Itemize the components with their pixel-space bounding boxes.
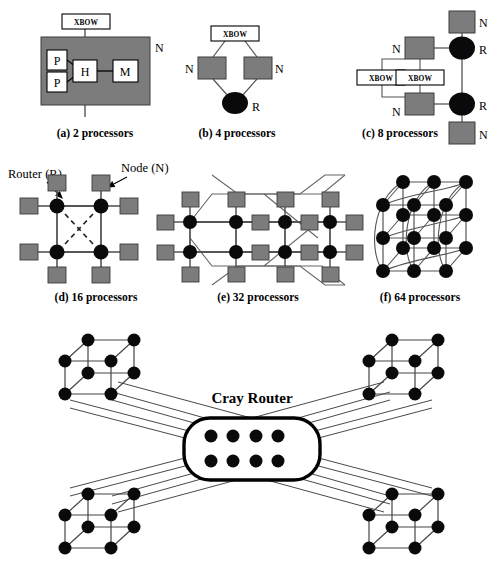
cluster-bottom-left-node-8	[105, 542, 118, 555]
panel-c-xbow-label-right: XBOW	[408, 74, 433, 83]
panel-e-node-1-top	[182, 192, 199, 207]
panel-c-router-bottom	[449, 93, 475, 116]
panel-f-router-b9	[459, 241, 473, 255]
cluster-top-left-node-4	[128, 367, 141, 380]
panel-a-node-marker: N	[155, 41, 164, 55]
panel-e-router-2-top	[229, 215, 243, 229]
panel-d-node-left-upper	[20, 198, 38, 214]
panel-d-node-top-right	[92, 175, 110, 191]
panel-c-node-marker-bottom: N	[479, 128, 488, 142]
panel-b-node-left	[198, 57, 226, 79]
panel-f-router-b2	[427, 175, 441, 189]
cluster-bottom-left-node-2	[128, 488, 141, 501]
panel-f-caption: (f) 64 processors	[380, 291, 461, 304]
panel-c-node-lower-mid	[405, 93, 434, 115]
panel-e-node-1-bottom	[182, 267, 199, 282]
panel-f-router-f7	[376, 264, 390, 278]
panel-f-router-f8	[407, 264, 421, 278]
panel-e-node-1-left	[157, 215, 174, 230]
cray-router-enclosure	[184, 418, 320, 480]
panel-a-memory-label: M	[120, 65, 131, 79]
panel-e-node-3-left-lower	[301, 245, 318, 260]
cluster-top-right-node-8	[409, 388, 422, 401]
panel-f-router-f5	[407, 231, 421, 245]
cluster-top-right-node-1	[386, 334, 399, 347]
cluster-bottom-left-node-6	[105, 509, 118, 522]
cray-router-title: Cray Router	[211, 390, 293, 406]
cluster-top-left-node-7	[59, 388, 72, 401]
cluster-top-right-node-3	[386, 367, 399, 380]
cray-router-dot-r1c3	[250, 430, 263, 443]
cluster-bottom-right-node-8	[409, 542, 422, 555]
cluster-bottom-left-node-3	[82, 521, 95, 534]
legend-node-label: Node (N)	[121, 161, 169, 175]
cray-router-dot-r2c4	[272, 455, 285, 468]
panel-f-router-b4	[396, 208, 410, 222]
panel-e-node-4-right-lower	[346, 245, 363, 260]
panel-b-caption: (b) 4 processors	[198, 127, 276, 140]
cray-router-dot-r1c2	[227, 430, 240, 443]
cray-router-dot-r2c1	[205, 455, 218, 468]
panel-d-caption: (d) 16 processors	[55, 291, 138, 304]
panel-f-router-b3	[459, 175, 473, 189]
panel-f-router-f6	[439, 231, 453, 245]
panel-b-router-marker: R	[252, 100, 260, 114]
cluster-bottom-right-node-6	[409, 509, 422, 522]
panel-d-node-top-left	[48, 175, 66, 191]
cluster-bottom-left-node-1	[82, 488, 95, 501]
panel-a-processor-label-1: P	[54, 54, 61, 68]
topology-figure-svg: XBOW P P H M N (a) 2 processors XBOW	[0, 0, 503, 575]
panel-d-router-top-left	[50, 199, 65, 214]
panel-b-router	[222, 92, 248, 114]
panel-e-node-3-left	[301, 215, 318, 230]
panel-c-node-upper-mid	[405, 37, 434, 59]
panel-e-node-4-bottom	[322, 267, 339, 282]
cluster-top-left-node-3	[82, 367, 95, 380]
panel-f-router-b6	[459, 208, 473, 222]
cluster-top-right-node-4	[432, 367, 445, 380]
panel-d-router-bottom-right	[94, 245, 109, 260]
panel-a-processor-label-2: P	[54, 76, 61, 90]
cluster-top-right-node-7	[363, 388, 376, 401]
panel-e-router-4-top	[323, 215, 337, 229]
cluster-bottom-right-node-3	[386, 521, 399, 534]
panel-d-router-top-right	[94, 199, 109, 214]
figure-canvas: XBOW P P H M N (a) 2 processors XBOW	[0, 0, 503, 575]
cluster-bottom-right-node-5	[363, 509, 376, 522]
panel-e-node-4-right	[346, 215, 363, 230]
cluster-top-left-node-1	[82, 334, 95, 347]
cray-router-dot-r2c2	[227, 455, 240, 468]
cluster-top-left-node-5	[59, 355, 72, 368]
panel-c-router-top	[449, 37, 475, 60]
cluster-top-right-node-5	[363, 355, 376, 368]
panel-f-router-b8	[427, 241, 441, 255]
cray-router-dot-r1c4	[272, 430, 285, 443]
panel-d-node-bottom-right	[92, 267, 110, 283]
panel-c-node-bottom	[449, 122, 475, 144]
panel-e-node-2-right-lower	[252, 245, 269, 260]
panel-d-node-right-lower	[120, 244, 138, 260]
panel-a-hub-label: H	[81, 65, 90, 79]
panel-f-router-b5	[427, 208, 441, 222]
panel-b-node-right	[244, 57, 272, 79]
panel-c-router-marker-top: R	[479, 43, 487, 57]
cluster-bottom-left-node-5	[59, 509, 72, 522]
cray-router-dot-r2c3	[250, 455, 263, 468]
cluster-top-left-node-8	[105, 388, 118, 401]
panel-e-node-3-top	[277, 192, 294, 207]
panel-f-router-f2	[407, 198, 421, 212]
cluster-top-right-node-6	[409, 355, 422, 368]
cluster-bottom-left-node-7	[59, 542, 72, 555]
cluster-top-left-node-2	[128, 334, 141, 347]
panel-e-router-3-bottom	[278, 245, 292, 259]
panel-b-node-marker-left: N	[185, 62, 194, 76]
panel-e-caption: (e) 32 processors	[217, 291, 299, 304]
panel-d-node-bottom-left	[48, 267, 66, 283]
panel-b-node-marker-right: N	[275, 62, 284, 76]
panel-e-node-2-top	[228, 192, 245, 207]
panel-c-xbow-label-left: XBOW	[369, 74, 394, 83]
panel-e-node-4-top	[322, 192, 339, 207]
cluster-bottom-right-node-1	[386, 488, 399, 501]
cluster-top-right-node-2	[432, 334, 445, 347]
panel-d-node-right-upper	[120, 198, 138, 214]
